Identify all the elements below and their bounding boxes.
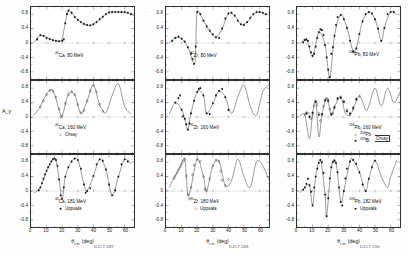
plot-panel-40Ca-80mev: 40Ca, 80 MeV: [30, 6, 135, 80]
y-tick-label: -0.8: [155, 70, 163, 75]
y-tick-label: 0: [25, 115, 28, 120]
plot-panel-90Zr-160mev: 90Zr, 160 MeV: [165, 80, 270, 154]
x-tick-label: 20: [194, 229, 199, 234]
y-tick-label: 0.8: [22, 159, 28, 164]
y-tick-label: -0.8: [20, 144, 28, 149]
filled-circle-marker-icon: ●: [353, 138, 358, 143]
panel-label-40Ca-160: 40Ca, 160 MeV: [55, 125, 86, 130]
panel-label-208Pb-80: 208Pb, 80 MeV: [349, 52, 379, 57]
column-ca40: 40Ca, 80 MeV40Ca, 160 MeV○Orsay40Ca, 181…: [6, 0, 137, 255]
y-tick-label: 0.8: [288, 159, 294, 164]
y-tick-label: 0: [25, 189, 28, 194]
y-tick-label: -0.4: [286, 56, 294, 61]
y-tick-label: -0.4: [286, 130, 294, 135]
legend-label: Uppsala: [65, 206, 82, 211]
y-tick-label: -0.4: [286, 204, 294, 209]
plot-panel-90Zr-80mev: 90Zr, 80 MeV: [165, 6, 270, 80]
x-tick-label: 10: [178, 229, 183, 234]
y-tick-label: -0.8: [286, 70, 294, 75]
y-tick-label: -0.8: [20, 218, 28, 223]
y-tick-label: 0.8: [157, 11, 163, 16]
legend-label: Orsay: [65, 132, 77, 137]
y-tick-label: -0.8: [155, 144, 163, 149]
x-tick-label: 50: [242, 229, 247, 234]
x-tick-label: 10: [43, 229, 48, 234]
open-circle-marker-icon: ○: [58, 132, 63, 137]
y-tick-label: 0.4: [288, 174, 294, 179]
plot-panel-40Ca-181mev: 40Ca, 181 MeV●Uppsala: [30, 154, 135, 228]
open-circle-marker-icon: ○: [193, 206, 198, 211]
y-tick-label: -0.8: [286, 144, 294, 149]
x-tick-label: 60: [389, 229, 394, 234]
y-tick-labels: 0.80.40-0.4-0.8: [6, 154, 30, 228]
x-tick-label: 20: [59, 229, 64, 234]
x-axis: 0102030405060θc.m. (deg): [296, 228, 401, 250]
y-tick-label: 0.8: [22, 11, 28, 16]
y-tick-label: 0: [291, 115, 294, 120]
y-tick-label: -0.8: [20, 70, 28, 75]
x-tick-label: 0: [295, 229, 298, 234]
panel-label-40Ca-80: 40Ca, 80 MeV: [55, 53, 83, 58]
legend-entry-orsay: ○Orsay: [58, 132, 77, 137]
x-axis-title: θc.m. (deg): [165, 238, 270, 244]
column-pb208: 208Pb, 80 MeV208Pb, 160 MeV○208Pb●209BiO…: [272, 0, 403, 255]
x-tick-label: 50: [107, 229, 112, 234]
y-tick-label: 0.4: [157, 100, 163, 105]
x-axis-title: θc.m. (deg): [30, 238, 135, 244]
y-tick-label: 0: [291, 41, 294, 46]
y-tick-label: 0.4: [22, 100, 28, 105]
panel-label-90Zr-160: 90Zr, 160 MeV: [190, 125, 219, 130]
y-tick-labels: 0.80.40-0.4-0.8: [6, 6, 30, 80]
figure-corner-id: DJC7-586: [229, 244, 249, 249]
x-tick-label: 60: [123, 229, 128, 234]
plot-panel-40Ca-160mev: 40Ca, 160 MeV○Orsay: [30, 80, 135, 154]
y-tick-label: -0.4: [20, 56, 28, 61]
y-tick-labels: 0.80.40-0.4-0.8: [141, 80, 165, 154]
y-tick-label: -0.8: [155, 218, 163, 223]
y-tick-label: 0: [291, 189, 294, 194]
y-tick-labels: 0.80.40-0.4-0.8: [141, 6, 165, 80]
x-tick-label: 20: [325, 229, 330, 234]
figure-corner-id: DJC7-589: [94, 244, 114, 249]
legend-entry-uppsala: ●Uppsala: [353, 206, 377, 211]
y-tick-labels: 0.80.40-0.4-0.8: [272, 80, 296, 154]
legend-label: Uppsala: [200, 206, 217, 211]
x-tick-label: 0: [164, 229, 167, 234]
y-tick-label: -0.4: [20, 130, 28, 135]
y-tick-label: 0.4: [157, 174, 163, 179]
plot-panel-208Pb-182mev: 208Pb, 182 MeV●Uppsala: [296, 154, 401, 228]
plot-panel-208Pb-80mev: 208Pb, 80 MeV: [296, 6, 401, 80]
y-tick-label: -0.8: [286, 218, 294, 223]
x-axis: 0102030405060θc.m. (deg): [30, 228, 135, 250]
x-tick-label: 0: [29, 229, 32, 234]
x-tick-label: 10: [309, 229, 314, 234]
legend-label: Uppsala: [360, 206, 377, 211]
x-tick-label: 40: [226, 229, 231, 234]
y-tick-label: -0.4: [155, 130, 163, 135]
y-tick-labels: 0.80.40-0.4-0.8: [272, 154, 296, 228]
x-tick-label: 30: [341, 229, 346, 234]
x-tick-label: 40: [357, 229, 362, 234]
analyzing-power-figure: A_y 40Ca, 80 MeV40Ca, 160 MeV○Orsay40Ca,…: [0, 0, 409, 255]
figure-corner-id: DJC7-590: [360, 244, 380, 249]
x-axis: 0102030405060θc.m. (deg): [165, 228, 270, 250]
y-tick-labels: 0.80.40-0.4-0.8: [6, 80, 30, 154]
panel-label-208Pb-182: 208Pb, 182 MeV: [349, 199, 382, 204]
legend-entry-uppsala: ○Uppsala: [193, 206, 217, 211]
open-circle-marker-icon: ○: [353, 132, 358, 137]
x-tick-label: 60: [258, 229, 263, 234]
panel-label-40Ca-181: 40Ca, 181 MeV: [55, 199, 86, 204]
y-tick-label: 0.8: [157, 159, 163, 164]
filled-circle-marker-icon: ●: [58, 206, 63, 211]
y-tick-label: -0.4: [20, 204, 28, 209]
filled-circle-marker-icon: ●: [353, 206, 358, 211]
plot-panel-90Zr-180mev: 90Zr, 180 MeV○Uppsala: [165, 154, 270, 228]
legend-group-label: Orsay: [375, 135, 390, 142]
y-tick-labels: 0.80.40-0.4-0.8: [141, 154, 165, 228]
x-tick-label: 40: [91, 229, 96, 234]
y-tick-label: 0.8: [288, 85, 294, 90]
plot-panel-208Pb-160mev: 208Pb, 160 MeV○208Pb●209BiOrsay: [296, 80, 401, 154]
legend-label: 209Bi: [360, 138, 370, 143]
legend-entry-bi: ●209Bi: [353, 138, 370, 143]
y-tick-label: -0.4: [155, 56, 163, 61]
